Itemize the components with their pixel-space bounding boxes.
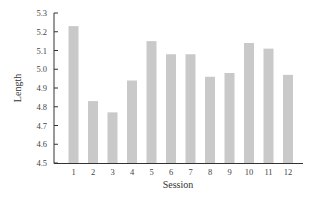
x-tick-label: 3 bbox=[110, 167, 114, 177]
y-tick-label: 5.0 bbox=[36, 64, 47, 74]
x-tick-label: 6 bbox=[169, 167, 173, 177]
y-tick-label: 4.5 bbox=[36, 158, 47, 168]
bars-group bbox=[69, 26, 294, 163]
y-tick-label: 5.3 bbox=[36, 8, 47, 18]
x-tick-label: 7 bbox=[188, 167, 192, 177]
x-tick-label: 10 bbox=[245, 167, 254, 177]
bar-session-5 bbox=[147, 41, 157, 163]
bar-session-3 bbox=[108, 112, 118, 163]
bar-session-4 bbox=[127, 81, 137, 164]
bar-session-9 bbox=[225, 73, 235, 163]
x-tick-label: 2 bbox=[91, 167, 95, 177]
y-tick-label: 4.9 bbox=[36, 83, 47, 93]
bar-session-8 bbox=[205, 77, 215, 163]
x-tick-label: 4 bbox=[130, 167, 135, 177]
y-tick-label: 5.1 bbox=[36, 46, 47, 56]
x-axis-ticks: 123456789101112 bbox=[71, 167, 292, 177]
bar-session-11 bbox=[264, 49, 274, 163]
x-tick-label: 1 bbox=[71, 167, 75, 177]
x-tick-label: 5 bbox=[149, 167, 153, 177]
x-tick-label: 12 bbox=[284, 167, 293, 177]
bar-session-1 bbox=[69, 26, 79, 163]
bar-chart: 4.54.64.74.84.95.05.15.25.3 123456789101… bbox=[0, 0, 318, 198]
x-tick-label: 8 bbox=[208, 167, 212, 177]
y-tick-label: 4.7 bbox=[36, 121, 47, 131]
y-axis-title: Length bbox=[12, 74, 23, 102]
y-tick-label: 5.2 bbox=[36, 27, 47, 37]
y-tick-label: 4.8 bbox=[36, 102, 47, 112]
x-axis-title: Session bbox=[163, 179, 194, 190]
x-tick-label: 11 bbox=[264, 167, 272, 177]
bar-session-10 bbox=[244, 43, 254, 163]
y-axis-ticks: 4.54.64.74.84.95.05.15.25.3 bbox=[36, 8, 58, 168]
bar-session-7 bbox=[186, 54, 196, 163]
bar-session-12 bbox=[283, 75, 293, 163]
x-tick-label: 9 bbox=[227, 167, 231, 177]
y-tick-label: 4.6 bbox=[36, 139, 47, 149]
bar-session-2 bbox=[88, 101, 98, 163]
bar-session-6 bbox=[166, 54, 176, 163]
